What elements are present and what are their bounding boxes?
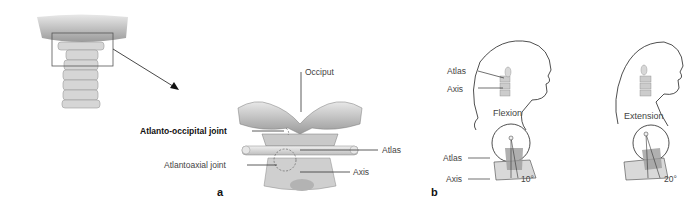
label-atlas-flexion-head: Atlas [447,67,466,76]
label-axis-flexion-detail: Axis [446,175,462,184]
panel-letter-b: b [431,186,438,198]
flexion-cervical-spine [500,76,510,96]
flexion-extension-illustration [0,0,698,205]
label-extension-angle: 20° [664,175,677,184]
label-extension: Extension [624,112,664,121]
label-flexion: Flexion [493,109,522,118]
label-atlas-flexion-detail: Atlas [443,154,462,163]
extension-cervical-spine [640,76,651,96]
label-flexion-angle: 10° [521,175,534,184]
label-axis-flexion-head: Axis [447,85,463,94]
